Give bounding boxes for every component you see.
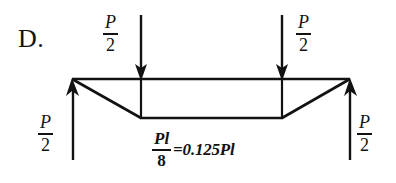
moment-numerator: Pl xyxy=(152,130,171,149)
load-label-left-numerator: P xyxy=(103,13,118,33)
moment-value-caption: Pl 8 =0.125Pl xyxy=(152,130,235,169)
reaction-label-left: P 2 xyxy=(38,113,53,154)
reaction-label-left-denominator: 2 xyxy=(39,135,52,155)
reaction-label-left-numerator: P xyxy=(38,113,53,133)
load-label-left: P 2 xyxy=(103,13,118,54)
load-label-right: P 2 xyxy=(296,13,311,54)
reaction-label-right-numerator: P xyxy=(357,113,372,133)
load-label-left-denominator: 2 xyxy=(104,35,117,55)
load-label-right-numerator: P xyxy=(296,13,311,33)
load-label-right-denominator: 2 xyxy=(297,35,310,55)
moment-fraction: Pl 8 xyxy=(152,130,171,169)
moment-slope-right xyxy=(282,79,350,118)
moment-slope-left xyxy=(72,79,141,118)
reaction-label-right-denominator: 2 xyxy=(358,135,371,155)
bending-moment-figure: D. P 2 P 2 xyxy=(0,0,396,183)
reaction-label-right: P 2 xyxy=(357,113,372,154)
moment-equals-value: =0.125Pl xyxy=(173,140,234,160)
moment-denominator: 8 xyxy=(155,151,168,170)
